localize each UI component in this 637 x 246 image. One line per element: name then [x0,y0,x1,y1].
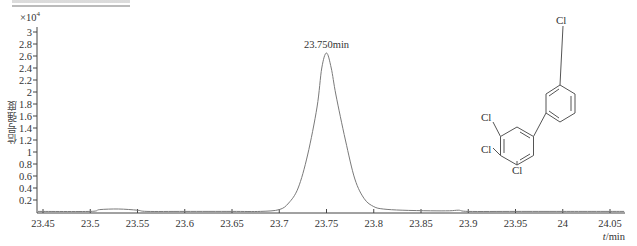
y-tick-label: 2.2 [19,75,32,86]
x-tick-label: 23.95 [504,218,528,229]
cl-label: Cl [481,111,491,123]
y-tick-label: 1.2 [19,135,32,146]
y-tick-label: 0.8 [19,159,32,170]
cl-label: Cl [481,143,491,155]
cl-label: Cl [556,14,566,26]
x-tick-label: 23.7 [270,218,288,229]
y-tick-label: 3 [27,27,32,38]
x-tick-label: 23.9 [459,218,477,229]
y-tick-label: 2.6 [19,51,32,62]
x-tick-label: 23.5 [81,218,99,229]
chromatogram-chart: ×104 0.20.40.60.811.21.41.61.822.22.42.6… [0,0,637,246]
y-tick-label: 0.4 [19,183,33,194]
y-multiplier: ×104 [20,10,40,23]
x-axis: 23.4523.523.5523.623.6523.723.7523.823.8… [31,209,625,229]
y-tick-label: 0.6 [19,171,32,182]
y-tick-label: 2.4 [19,63,33,74]
molecule-structure: Cl Cl Cl Cl [481,14,575,176]
x-tick-label: 23.8 [365,218,383,229]
y-axis: 0.20.40.60.811.21.41.61.822.22.42.62.83 [19,27,37,214]
y-tick-label: 2.8 [19,39,32,50]
x-tick-label: 23.75 [315,218,339,229]
x-tick-label: 23.65 [220,218,244,229]
x-tick-label: 23.55 [126,218,150,229]
x-tick-label: 23.85 [409,218,433,229]
peak-label: 23.750min [304,39,350,50]
y-tick-label: 2 [27,87,32,98]
x-tick-label: 23.6 [176,218,194,229]
x-tick-label: 23.45 [31,218,55,229]
y-tick-label: 1.4 [19,123,33,134]
cl-label: Cl [512,164,522,176]
y-tick-label: 1 [27,147,32,158]
x-axis-label: t/min [603,231,626,242]
x-tick-label: 24.05 [598,218,622,229]
y-tick-label: 1.6 [19,111,32,122]
y-tick-label: 0.2 [19,195,32,206]
y-tick-label: 1.8 [19,99,32,110]
x-tick-label: 24 [558,218,569,229]
